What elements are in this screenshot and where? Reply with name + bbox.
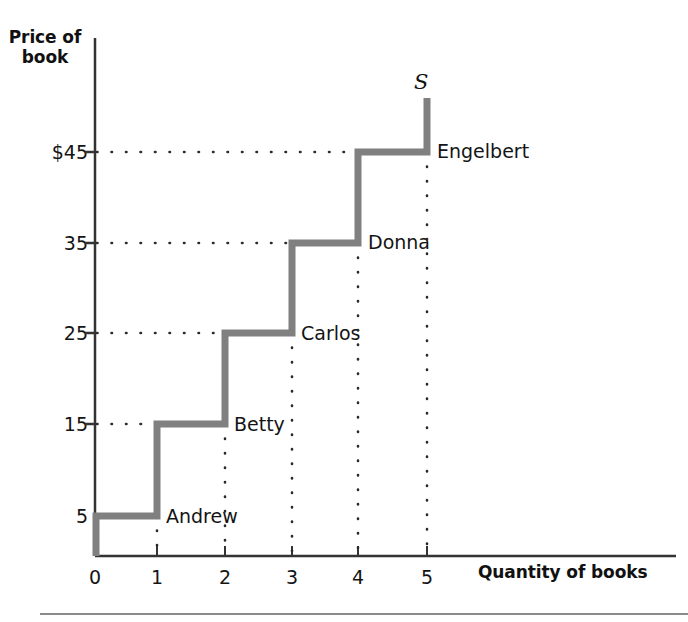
supply-step-curve (96, 98, 427, 556)
bottom-divider (40, 613, 688, 615)
supply-curve-chart: Price ofbook Quantity of books $45 35 25… (0, 0, 688, 622)
plot-area (0, 0, 688, 622)
